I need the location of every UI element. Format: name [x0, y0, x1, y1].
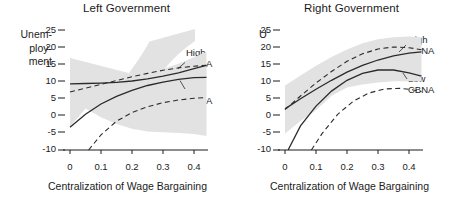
panel-right-government: Right Government U 25 20 15 10 5 0 -5 -1…: [231, 0, 462, 206]
panel-left-government: Left Government Unem- ploy- ment 25 20 1…: [0, 0, 231, 206]
plot-area-right: [231, 0, 462, 206]
figure-container: Left Government Unem- ploy- ment 25 20 1…: [0, 0, 462, 206]
plot-area-left: [0, 0, 231, 206]
